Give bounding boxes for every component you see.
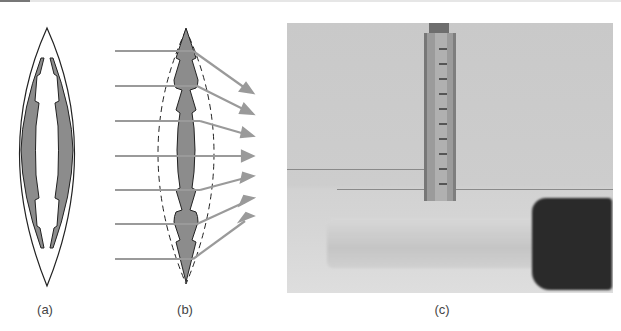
panel-a-label: (a) bbox=[25, 302, 65, 317]
panel-b-label: (b) bbox=[165, 302, 205, 317]
refraction-diagram bbox=[100, 0, 270, 300]
dark-block-object bbox=[532, 198, 612, 290]
panel-a: (a) bbox=[0, 0, 100, 331]
transparent-lens-object bbox=[327, 218, 537, 268]
ruler bbox=[424, 33, 456, 201]
panel-c-label: (c) bbox=[422, 302, 462, 317]
table-edge-line bbox=[337, 189, 613, 190]
table-edge-line bbox=[287, 169, 437, 170]
panel-b: (b) bbox=[100, 0, 270, 331]
stepped-lens-diagram bbox=[0, 0, 100, 300]
panel-c-photo bbox=[287, 23, 613, 293]
